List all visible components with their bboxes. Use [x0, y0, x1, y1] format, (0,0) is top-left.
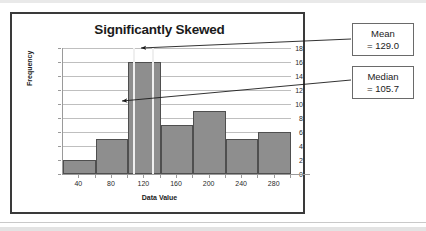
mean-callout-line1: Mean	[371, 28, 395, 39]
x-tick-label-160: 160	[163, 180, 189, 187]
x-tick-mark-240	[241, 175, 242, 178]
page-rule-bottom	[0, 227, 426, 231]
mean-reference-line	[152, 48, 154, 174]
x-tick-mark-200	[209, 175, 210, 178]
y-tick-mark-6	[58, 132, 61, 133]
x-tick-label-40: 40	[65, 180, 91, 187]
y-tick-mark-2	[58, 160, 61, 161]
page-root: Significantly Skewed Frequency 18 16 14 …	[0, 0, 426, 231]
x-tick-label-120: 120	[130, 180, 156, 187]
x-tick-mark-140	[160, 175, 161, 178]
median-reference-line	[133, 48, 135, 174]
median-callout-line2: = 105.7	[353, 83, 413, 95]
histogram-bar-7	[258, 132, 291, 174]
y-tick-mark-0	[58, 174, 61, 175]
plot-area	[62, 48, 290, 174]
median-callout: Median = 105.7	[352, 66, 414, 99]
median-callout-line1: Median	[367, 71, 398, 82]
y-tick-mark-8	[58, 118, 61, 119]
gridline-10	[63, 104, 291, 105]
mean-callout-line2: = 129.0	[353, 40, 413, 52]
gridline-14	[63, 76, 291, 77]
y-axis-title: Frequency	[26, 51, 33, 86]
gridline-16	[63, 62, 291, 63]
x-tick-mark-300	[290, 175, 291, 178]
x-tick-label-240: 240	[228, 180, 254, 187]
histogram-bar-1	[63, 160, 96, 174]
page-rule-bottom-thin	[0, 222, 426, 223]
chart-frame: Significantly Skewed Frequency 18 16 14 …	[10, 12, 305, 214]
x-tick-label-80: 80	[98, 180, 124, 187]
histogram-bar-2	[96, 139, 129, 174]
histogram-bar-5	[193, 111, 226, 174]
y-tick-mark-4	[58, 146, 61, 147]
x-tick-mark-40	[78, 175, 79, 178]
chart-title: Significantly Skewed	[12, 22, 307, 37]
y-tick-mark-14	[58, 76, 61, 77]
x-tick-mark-260	[257, 175, 258, 178]
x-tick-label-200: 200	[196, 180, 222, 187]
y-tick-mark-16	[58, 62, 61, 63]
y-tick-mark-10	[58, 104, 61, 105]
x-tick-mark-180	[192, 175, 193, 178]
x-tick-label-280: 280	[261, 180, 287, 187]
mean-callout: Mean = 129.0	[352, 23, 414, 56]
x-tick-mark-120	[143, 175, 144, 178]
x-tick-mark-80	[111, 175, 112, 178]
gridline-8	[63, 118, 291, 119]
histogram-bar-4	[161, 125, 194, 174]
x-tick-mark-160	[176, 175, 177, 178]
x-tick-mark-60	[95, 175, 96, 178]
page-rule-top	[0, 0, 426, 3]
gridline-18	[63, 48, 291, 49]
x-tick-mark-280	[274, 175, 275, 178]
histogram-bar-6	[226, 139, 259, 174]
x-tick-mark-100	[127, 175, 128, 178]
gridline-12	[63, 90, 291, 91]
y-tick-mark-12	[58, 90, 61, 91]
x-tick-mark-220	[225, 175, 226, 178]
x-axis-title: Data Value	[12, 194, 307, 201]
y-tick-mark-18	[58, 48, 61, 49]
